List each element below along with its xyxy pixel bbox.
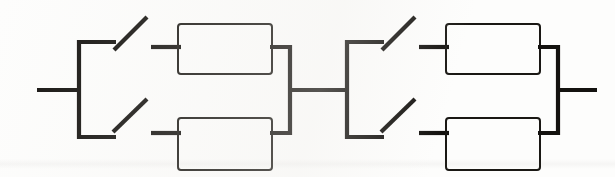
stage-2 — [347, 17, 558, 170]
switch-bus-2 — [347, 42, 384, 137]
block-1-top[interactable] — [178, 24, 272, 74]
reliability-block-diagram — [0, 0, 615, 177]
switch-blade-icon[interactable] — [382, 17, 415, 50]
switch-bus-1 — [79, 42, 116, 137]
switch-2-bottom[interactable] — [381, 99, 449, 133]
diagram-canvas — [0, 0, 615, 177]
switch-1-top[interactable] — [114, 17, 181, 50]
block-2-top[interactable] — [446, 24, 540, 74]
switch-blade-icon[interactable] — [381, 99, 415, 132]
switch-1-bottom[interactable] — [113, 99, 181, 133]
switch-2-top[interactable] — [382, 17, 449, 50]
stage-1 — [79, 17, 290, 170]
switch-blade-icon[interactable] — [113, 99, 147, 132]
switch-blade-icon[interactable] — [114, 17, 147, 50]
block-2-bottom[interactable] — [446, 118, 540, 170]
block-1-bottom[interactable] — [178, 118, 272, 170]
